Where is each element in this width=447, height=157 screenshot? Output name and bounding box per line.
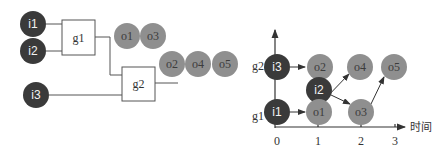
timeline-diagram: 0 1 2 3 时间 g1 g2 i3 i1 o2 i2 <box>252 30 432 148</box>
timeline-node-o1: o1 <box>306 99 332 125</box>
output-node-o1: o1 <box>114 23 140 49</box>
gate-g1-label: g1 <box>73 31 85 45</box>
svg-text:o4: o4 <box>192 57 204 71</box>
input-node-i2: i2 <box>20 38 46 64</box>
svg-text:i3: i3 <box>31 88 41 102</box>
svg-text:o1: o1 <box>313 105 325 119</box>
svg-text:o2: o2 <box>166 57 178 71</box>
diagram-canvas: g1 g2 i1 i2 i3 o1 o3 o2 <box>0 0 447 157</box>
y-tick-label-g1: g1 <box>252 109 264 123</box>
timeline-node-i1: i1 <box>264 99 290 125</box>
svg-text:o3: o3 <box>355 105 367 119</box>
svg-text:o5: o5 <box>388 60 400 74</box>
x-tick-label-0: 0 <box>274 134 280 148</box>
svg-text:i2: i2 <box>28 44 38 58</box>
output-node-o4: o4 <box>185 51 211 77</box>
svg-text:i2: i2 <box>314 83 324 97</box>
timeline-node-o2: o2 <box>307 54 333 80</box>
input-node-i1: i1 <box>20 11 46 37</box>
timeline-node-o5: o5 <box>381 54 407 80</box>
x-tick-label-2: 2 <box>358 134 364 148</box>
svg-text:o4: o4 <box>354 60 366 74</box>
x-tick-label-3: 3 <box>392 134 398 148</box>
timeline-node-o3: o3 <box>348 99 374 125</box>
output-node-o2: o2 <box>159 51 185 77</box>
output-node-o5: o5 <box>212 51 238 77</box>
arrow-o3-o5 <box>371 77 384 104</box>
svg-text:o2: o2 <box>314 60 326 74</box>
input-node-i3: i3 <box>23 82 49 108</box>
svg-text:i1: i1 <box>28 17 38 31</box>
gate-g2: g2 <box>122 67 155 101</box>
gate-g1: g1 <box>62 20 95 55</box>
timeline-node-o4: o4 <box>347 54 373 80</box>
y-tick-label-g2: g2 <box>252 59 264 73</box>
circuit-diagram: g1 g2 i1 i2 i3 o1 o3 o2 <box>20 11 238 108</box>
svg-text:o1: o1 <box>121 29 133 43</box>
svg-text:o3: o3 <box>147 29 159 43</box>
svg-text:i1: i1 <box>272 105 282 119</box>
arrow-i2-o3 <box>331 95 350 104</box>
x-axis-label: 时间 <box>410 121 432 134</box>
svg-text:i3: i3 <box>272 60 282 74</box>
gate-g2-label: g2 <box>133 77 145 91</box>
output-node-o3: o3 <box>140 23 166 49</box>
svg-text:o5: o5 <box>219 57 231 71</box>
timeline-node-i3: i3 <box>264 54 290 80</box>
x-tick-label-1: 1 <box>315 134 321 148</box>
